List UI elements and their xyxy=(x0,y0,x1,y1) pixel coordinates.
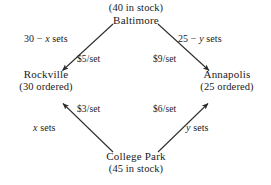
node-rockville-annotation: (30 ordered) xyxy=(2,81,90,93)
node-baltimore: (40 in stock) Baltimore xyxy=(84,2,188,27)
edge-cost-baltimore-annapolis: $9/set xyxy=(153,54,176,64)
transportation-network-diagram: (40 in stock) Baltimore Rockville (30 or… xyxy=(0,0,271,185)
edge-cost-collegepark-rockville: $3/set xyxy=(77,104,100,114)
node-college-park-label: College Park xyxy=(84,150,188,163)
node-annapolis: Annapolis (25 ordered) xyxy=(184,68,270,93)
node-rockville: Rockville (30 ordered) xyxy=(2,68,90,93)
node-rockville-label: Rockville xyxy=(2,68,90,81)
edge-cost-collegepark-annapolis: $6/set xyxy=(153,104,176,114)
node-annapolis-label: Annapolis xyxy=(184,68,270,81)
edge-quantity-baltimore-rockville: 30 − x sets xyxy=(24,33,68,44)
edge-quantity-prefix: 30 − xyxy=(24,33,45,44)
edge-quantity-suffix: sets xyxy=(50,33,68,44)
edge-quantity-collegepark-rockville: x sets xyxy=(33,122,56,133)
edge-quantity-suffix: sets xyxy=(191,122,209,133)
edge-quantity-suffix: sets xyxy=(38,122,56,133)
edge-quantity-suffix: sets xyxy=(204,33,222,44)
edge-quantity-baltimore-annapolis: 25 − y sets xyxy=(178,33,222,44)
node-baltimore-annotation: (40 in stock) xyxy=(84,2,188,14)
edge-cost-baltimore-rockville: $5/set xyxy=(77,54,100,64)
node-baltimore-label: Baltimore xyxy=(84,14,188,27)
node-college-park-annotation: (45 in stock) xyxy=(84,163,188,175)
node-college-park: College Park (45 in stock) xyxy=(84,150,188,175)
edge-quantity-prefix: 25 − xyxy=(178,33,199,44)
edge-quantity-collegepark-annapolis: y sets xyxy=(186,122,209,133)
node-annapolis-annotation: (25 ordered) xyxy=(184,81,270,93)
